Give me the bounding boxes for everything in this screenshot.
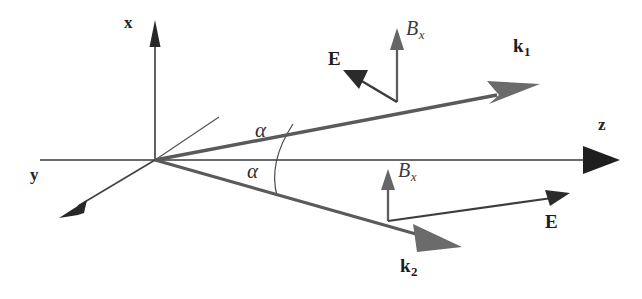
bx-upper-vector bbox=[390, 28, 404, 102]
vector-diagram-figure: x y z k1 k2 α α Bx E Bx E bbox=[0, 0, 642, 299]
bx-lower-label-subscript: x bbox=[411, 169, 417, 184]
bx-upper-label: Bx bbox=[406, 18, 425, 41]
y-axis bbox=[59, 160, 155, 218]
e-upper-label: E bbox=[328, 49, 341, 68]
diagram-canvas bbox=[0, 0, 642, 299]
k1-label-subscript: 1 bbox=[524, 44, 531, 59]
bx-upper-label-subscript: x bbox=[419, 27, 425, 42]
e-lower-label: E bbox=[545, 212, 558, 231]
e-upper-vector bbox=[343, 70, 397, 102]
bx-lower-label-base: B bbox=[398, 159, 410, 181]
bx-lower-label: Bx bbox=[398, 160, 417, 183]
k1-label: k1 bbox=[513, 36, 531, 58]
y-axis-label: y bbox=[30, 166, 39, 183]
e-upper-arrowhead bbox=[343, 70, 368, 89]
k1-label-base: k bbox=[513, 35, 524, 56]
z-axis bbox=[40, 146, 620, 174]
z-axis-arrowhead bbox=[583, 146, 620, 174]
k2-label-subscript: 2 bbox=[411, 264, 418, 279]
angle-upper-label: α bbox=[255, 120, 266, 141]
z-axis-label: z bbox=[598, 116, 606, 133]
bx-upper-label-base: B bbox=[406, 17, 418, 39]
bx-lower-vector bbox=[381, 169, 395, 221]
k1-arrowhead bbox=[487, 81, 540, 104]
x-axis bbox=[150, 20, 161, 160]
x-axis-label: x bbox=[124, 14, 133, 31]
k2-label: k2 bbox=[400, 256, 418, 278]
e-lower-vector bbox=[388, 190, 570, 221]
angle-lower-label: α bbox=[247, 161, 258, 182]
bx-upper-arrowhead bbox=[390, 28, 404, 50]
e-lower-arrowhead bbox=[545, 190, 570, 206]
k2-arrowhead bbox=[413, 224, 462, 252]
x-axis-arrowhead bbox=[150, 20, 161, 47]
k2-label-base: k bbox=[400, 255, 411, 276]
bx-lower-arrowhead bbox=[381, 169, 395, 190]
